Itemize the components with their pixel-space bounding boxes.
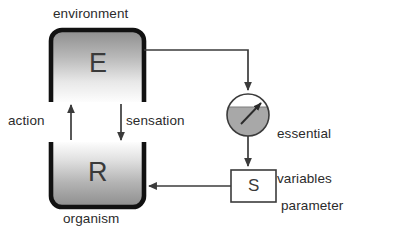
parameter-space-letter: S [248,177,259,194]
environment-label: environment [53,6,128,21]
diagram-canvas: E R S environment organism action sensat… [0,0,419,234]
parameter-space-label: parameter space (adaptation) [281,168,395,234]
environment-letter: E [89,50,107,77]
organism-letter: R [88,159,108,186]
gauge-fill-level [226,107,270,137]
environment-to-gauge-line [144,50,248,90]
essential-variables-gauge[interactable] [226,94,270,137]
essential-variables-label-line1: essential [277,126,332,141]
action-label: action [8,113,45,128]
sensation-label: sensation [126,113,185,128]
organism-label: organism [63,211,119,226]
parameter-space-label-line1: parameter [281,198,395,213]
